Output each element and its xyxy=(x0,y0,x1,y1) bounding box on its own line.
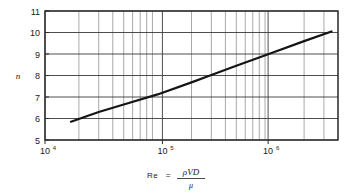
y-tick-label: 7 xyxy=(35,93,40,103)
x-axis-label-denominator: μ xyxy=(188,181,193,190)
chart-figure: 11 10 9 8 7 6 5 n 10 4 10 5 xyxy=(0,0,351,193)
y-tick-label: 11 xyxy=(31,7,40,17)
y-tick-label: 8 xyxy=(35,71,40,81)
y-axis-label: n xyxy=(16,71,21,81)
x-axis-label-equals: = xyxy=(166,171,171,180)
x-tick-mantissa: 10 xyxy=(157,146,167,156)
semilog-chart-svg: 11 10 9 8 7 6 5 n 10 4 10 5 xyxy=(0,0,351,193)
y-tick-label: 10 xyxy=(30,28,40,38)
x-tick-mantissa: 10 xyxy=(263,146,273,156)
y-tick-label: 9 xyxy=(35,50,40,60)
x-tick-mantissa: 10 xyxy=(40,146,50,156)
chart-background xyxy=(0,0,351,193)
x-axis-label-numerator: ρVD xyxy=(182,167,200,177)
y-tick-label: 6 xyxy=(35,114,40,124)
y-tick-label: 5 xyxy=(35,136,40,146)
x-axis-label-symbol: Re xyxy=(147,171,158,180)
